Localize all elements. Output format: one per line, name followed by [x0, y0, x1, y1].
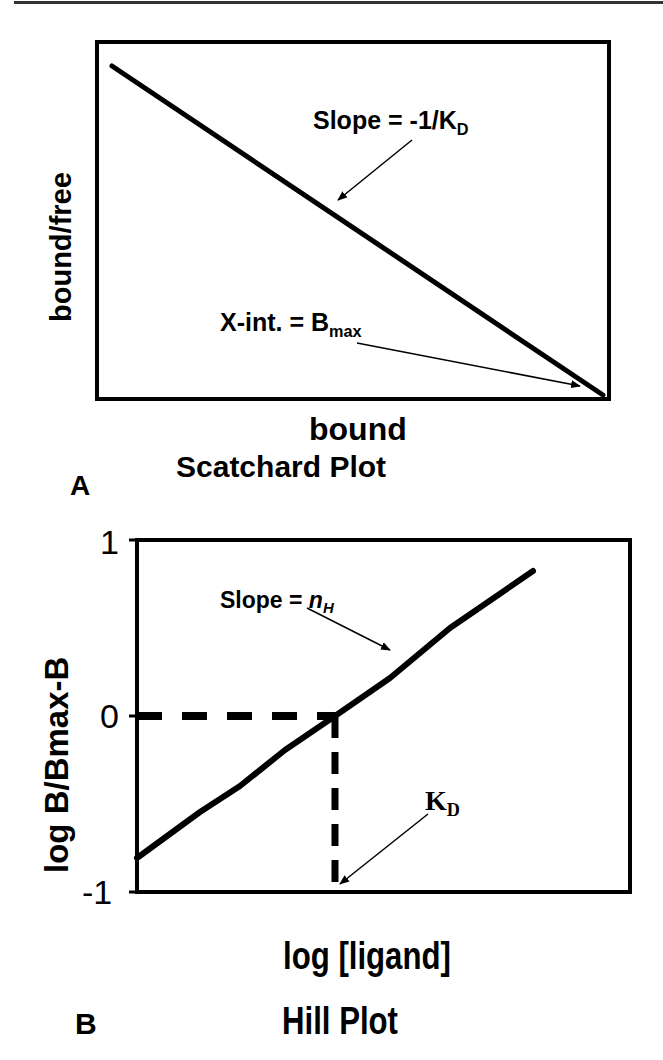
xint-arrow-icon — [357, 343, 580, 386]
scatchard-x-axis-label: bound — [309, 411, 407, 448]
scatchard-y-axis-label: bound/free — [45, 172, 78, 322]
kd-arrow-icon — [340, 814, 428, 884]
hill-title: Hill Plot — [282, 1000, 423, 1043]
hill-slope-label: Slope = nH — [220, 587, 334, 614]
ytick-label-0: 0 — [100, 697, 119, 736]
panel-letter-a: A — [70, 470, 90, 502]
slope-arrow-icon — [338, 140, 412, 200]
ytick-label-1: 1 — [100, 523, 119, 562]
scatchard-slope-label: Slope = -1/KD — [313, 106, 469, 135]
scatchard-title: Scatchard Plot — [176, 450, 386, 484]
hill-kd-label: KD — [425, 785, 460, 817]
nh-arrow-icon — [307, 608, 390, 650]
hill-y-axis-label: log B/Bmax-B — [38, 657, 76, 873]
hill-x-axis-label: log [ligand] — [283, 935, 488, 978]
scatchard-xint-label: X-int. = Bmax — [220, 308, 362, 337]
ytick-label-neg1: -1 — [82, 873, 112, 912]
hill-plot-frame — [137, 540, 630, 892]
panel-letter-b: B — [75, 1007, 97, 1041]
